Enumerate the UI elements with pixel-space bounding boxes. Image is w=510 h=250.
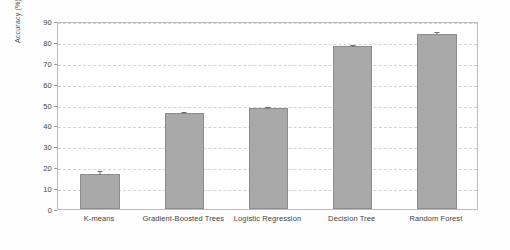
x-tick-label: Gradient-Boosted Trees (142, 214, 224, 223)
y-tick-mark (54, 147, 57, 148)
y-tick-label: 60 (26, 80, 52, 89)
bar[interactable] (249, 108, 289, 209)
y-tick-mark (54, 43, 57, 44)
y-tick-mark (54, 168, 57, 169)
x-tick-label: Random Forest (409, 214, 462, 223)
error-bar-cap (350, 45, 355, 46)
bar[interactable] (80, 174, 120, 210)
bar-slot (165, 23, 205, 209)
y-tick-label: 0 (26, 206, 52, 215)
y-tick-label: 70 (26, 59, 52, 68)
plot-area (57, 22, 478, 210)
bar-slot (249, 23, 289, 209)
bar[interactable] (333, 46, 373, 209)
y-tick-mark (54, 85, 57, 86)
bar-slot (80, 23, 120, 209)
y-tick-mark (54, 189, 57, 190)
y-tick-mark (54, 126, 57, 127)
y-tick-mark (54, 210, 57, 211)
error-bar-cap (434, 32, 439, 33)
x-tick-label: Logistic Regression (234, 214, 301, 223)
y-tick-label: 40 (26, 122, 52, 131)
y-tick-mark (54, 64, 57, 65)
y-tick-label: 10 (26, 185, 52, 194)
y-tick-label: 50 (26, 101, 52, 110)
bar[interactable] (165, 113, 205, 209)
bar[interactable] (417, 34, 457, 209)
bar-slot (333, 23, 373, 209)
bar-slot (417, 23, 457, 209)
error-bar-cap (182, 112, 187, 113)
y-tick-label: 80 (26, 38, 52, 47)
chart-figure: Accuracy (%) 0102030405060708090 K-means… (0, 0, 510, 250)
x-tick-label: Decision Tree (328, 214, 375, 223)
y-tick-label: 30 (26, 143, 52, 152)
y-tick-label: 20 (26, 164, 52, 173)
y-tick-label: 90 (26, 18, 52, 27)
y-tick-mark (54, 106, 57, 107)
x-tick-label: K-means (84, 214, 115, 223)
y-tick-mark (54, 22, 57, 23)
error-bar-cap (98, 171, 103, 172)
error-bar-cap (266, 107, 271, 108)
